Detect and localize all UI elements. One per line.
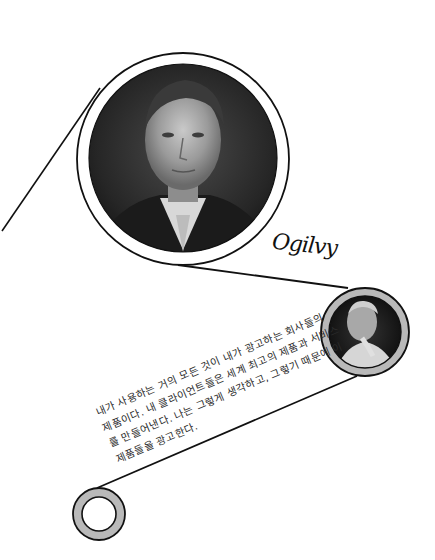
ring-end-cap (73, 488, 125, 540)
connector-line-middle (178, 265, 348, 288)
portrait-large (77, 53, 290, 265)
decorative-line-art (0, 0, 435, 560)
infographic-stage: Ogilvy 내가 사용하는 거의 모든 것이 내가 광고하는 회사들의 제품이… (0, 0, 435, 560)
